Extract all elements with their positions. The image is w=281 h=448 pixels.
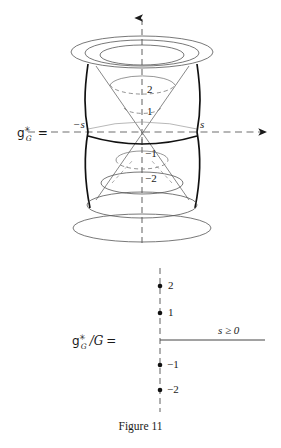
level-label-2: 2: [147, 84, 153, 95]
dual-space-label: g✳G=: [17, 125, 48, 142]
equals-sign-quotient: =: [106, 334, 116, 348]
figure-11: g✳G= −s s 2 1 −1 −2 g✳G/G= s ≥ 0 2 1 −1 …: [0, 0, 281, 448]
quotient-point-1: [158, 311, 163, 316]
level-label-neg-2: −2: [145, 173, 157, 184]
quotient-point-neg2: [158, 388, 163, 393]
quotient-by-g: /G: [90, 334, 104, 348]
upper-panel-graphics: [28, 18, 266, 243]
lower-cone-dash-left: [112, 160, 133, 183]
level-label-1: 1: [147, 106, 153, 117]
quotient-point-2: [158, 284, 163, 289]
quotient-label-neg-2: −2: [167, 384, 179, 395]
quotient-label-2: 2: [168, 280, 174, 291]
level-label-neg-1: −1: [145, 148, 157, 159]
quotient-space-label: g✳G/G=: [72, 333, 116, 350]
figure-graphics: [0, 0, 281, 448]
g-subscript-quotient: G: [81, 342, 87, 351]
star-superscript-quotient: ✳: [79, 333, 86, 342]
axis-label-positive-s: s: [200, 119, 204, 130]
quotient-label-1: 1: [168, 307, 174, 318]
g-subscript: G: [26, 134, 32, 143]
equals-sign: =: [38, 126, 48, 140]
star-superscript: ✳: [24, 125, 31, 134]
quotient-label-neg-1: −1: [167, 359, 179, 370]
quotient-point-neg1: [158, 363, 163, 368]
figure-caption: Figure 11: [0, 420, 281, 432]
ray-label-s-nonneg: s ≥ 0: [218, 325, 239, 336]
axis-label-negative-s: −s: [73, 119, 85, 130]
